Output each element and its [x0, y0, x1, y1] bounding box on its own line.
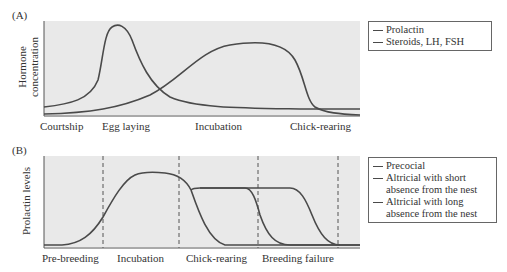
legend-item-altricial-short: Altricial with short absence from the ne…: [373, 172, 491, 196]
panel-b-plot-area: [44, 156, 360, 247]
y-label-line2: concentration: [28, 27, 40, 107]
y-label-line1: Hormone: [16, 27, 28, 107]
x-tick-pre-breeding: Pre-breeding: [42, 252, 99, 264]
x-tick-breeding-failure: Breeding failure: [262, 252, 334, 264]
x-tick-courtship: Courtship: [40, 120, 83, 132]
legend-item-precocial: Precocial: [373, 160, 491, 172]
x-tick-incubation: Incubation: [195, 120, 242, 132]
x-tick-egg-laying: Egg laying: [102, 120, 150, 132]
panel-a-plot-area: [44, 21, 360, 115]
panel-a-legend: Prolactin Steroids, LH, FSH: [368, 21, 492, 51]
x-tick-incubation-b: Incubation: [117, 252, 164, 264]
x-tick-chick-rearing: Chick-rearing: [290, 120, 351, 132]
legend-swatch: [373, 166, 383, 167]
panel-a-y-label: Hormone concentration: [16, 27, 40, 107]
legend-swatch: [373, 42, 383, 43]
x-tick-chick-rearing-b: Chick-rearing: [186, 252, 247, 264]
legend-item-prolactin: Prolactin: [373, 24, 486, 36]
panel-b-y-label: Prolactin levels: [20, 161, 32, 241]
legend-swatch: [373, 30, 383, 31]
legend-item-steroids: Steroids, LH, FSH: [373, 36, 486, 48]
legend-swatch: [373, 202, 383, 203]
legend-item-altricial-long: Altricial with long absence from the nes…: [373, 196, 491, 220]
panel-b-legend: Precocial Altricial with short absence f…: [368, 157, 497, 223]
legend-swatch: [373, 178, 383, 179]
